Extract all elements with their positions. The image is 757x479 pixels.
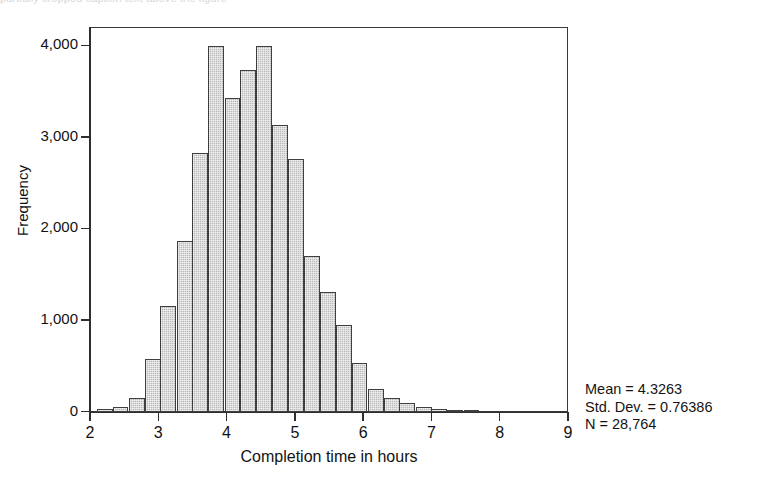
x-tick-mark bbox=[567, 412, 568, 421]
histogram-bar bbox=[145, 359, 161, 412]
x-axis-line bbox=[90, 412, 568, 414]
y-tick-mark bbox=[81, 45, 90, 46]
histogram-bar bbox=[272, 125, 288, 412]
histogram-bars bbox=[90, 27, 568, 412]
histogram-bar bbox=[177, 241, 193, 412]
x-tick-label: 3 bbox=[143, 424, 173, 442]
x-tick-mark bbox=[158, 412, 159, 421]
histogram-bar bbox=[240, 70, 256, 412]
x-tick-mark bbox=[226, 412, 227, 421]
histogram-bar bbox=[336, 325, 352, 412]
y-axis-title: Frequency bbox=[14, 101, 31, 301]
x-tick-mark bbox=[362, 412, 363, 421]
histogram-bar bbox=[160, 306, 176, 412]
histogram-bar bbox=[225, 98, 241, 412]
x-tick-label: 5 bbox=[280, 424, 310, 442]
histogram-bar bbox=[129, 398, 145, 412]
x-tick-mark bbox=[431, 412, 432, 421]
cropped-caption-text: partially cropped caption text above the… bbox=[0, 0, 757, 4]
y-tick-label: 2,000 bbox=[0, 218, 78, 235]
x-tick-label: 2 bbox=[75, 424, 105, 442]
x-tick-mark bbox=[89, 412, 90, 421]
histogram-bar bbox=[208, 46, 224, 412]
y-tick-mark bbox=[81, 136, 90, 137]
x-axis-title: Completion time in hours bbox=[90, 448, 568, 466]
x-tick-mark bbox=[294, 412, 295, 421]
x-tick-label: 6 bbox=[348, 424, 378, 442]
histogram-bar bbox=[384, 398, 400, 412]
histogram-bar bbox=[304, 256, 320, 412]
histogram-bar bbox=[320, 292, 336, 412]
histogram-bar bbox=[256, 46, 272, 412]
y-tick-mark bbox=[81, 228, 90, 229]
y-tick-label: 1,000 bbox=[0, 310, 78, 327]
x-tick-mark bbox=[499, 412, 500, 421]
y-tick-label: 0 bbox=[0, 402, 78, 419]
y-tick-mark bbox=[81, 319, 90, 320]
x-tick-label: 9 bbox=[553, 424, 583, 442]
histogram-bar bbox=[288, 159, 304, 412]
histogram-bar bbox=[368, 389, 384, 412]
mean-label: Mean = 4.3263 bbox=[585, 381, 713, 399]
n-label: N = 28,764 bbox=[585, 416, 713, 434]
std-dev-label: Std. Dev. = 0.76386 bbox=[585, 399, 713, 417]
cropped-caption-sliver: partially cropped caption text above the… bbox=[0, 0, 757, 14]
x-tick-label: 7 bbox=[416, 424, 446, 442]
y-tick-label: 4,000 bbox=[0, 35, 78, 52]
histogram-bar bbox=[352, 363, 368, 412]
x-tick-label: 4 bbox=[212, 424, 242, 442]
y-axis-line bbox=[89, 27, 91, 412]
statistics-annotation: Mean = 4.3263 Std. Dev. = 0.76386 N = 28… bbox=[585, 381, 713, 434]
x-tick-label: 8 bbox=[485, 424, 515, 442]
histogram-bar bbox=[192, 153, 208, 412]
y-tick-label: 3,000 bbox=[0, 127, 78, 144]
histogram-figure: partially cropped caption text above the… bbox=[0, 0, 757, 479]
